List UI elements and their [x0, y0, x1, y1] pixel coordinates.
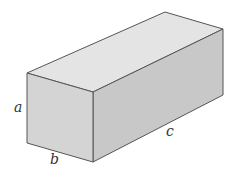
label-a: a	[14, 99, 22, 115]
label-b: b	[50, 151, 59, 167]
cuboid-diagram: a b c	[0, 0, 241, 173]
label-c: c	[166, 123, 174, 139]
